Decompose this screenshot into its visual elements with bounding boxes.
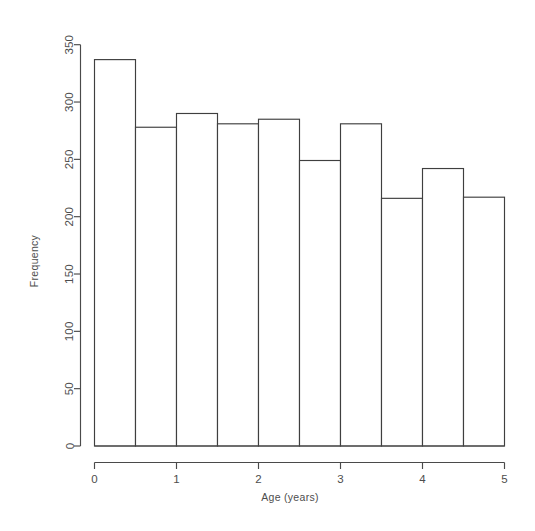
y-tick-label: 100 xyxy=(64,321,76,341)
histogram-figure: 050100150200250300350 012345 Age (years)… xyxy=(0,0,535,531)
histogram-bar xyxy=(259,119,300,446)
y-tick-label: 250 xyxy=(64,149,76,169)
x-tick-label: 4 xyxy=(419,473,426,485)
y-axis-title: Frequency xyxy=(28,234,40,287)
histogram-bar xyxy=(341,124,382,446)
y-tick-label: 0 xyxy=(64,443,76,450)
y-tick-label: 300 xyxy=(64,92,76,112)
histogram-bar xyxy=(300,161,341,447)
histogram-bar xyxy=(464,197,505,446)
y-tick-label: 150 xyxy=(64,264,76,284)
y-tick-label: 50 xyxy=(64,382,76,395)
x-tick-label: 2 xyxy=(255,473,262,485)
histogram-bar xyxy=(218,124,259,446)
x-tick-label: 3 xyxy=(337,473,344,485)
x-tick-label: 5 xyxy=(501,473,508,485)
x-axis-title: Age (years) xyxy=(261,491,319,503)
histogram-bar xyxy=(95,60,136,446)
plot-canvas: 050100150200250300350 012345 Age (years)… xyxy=(0,0,535,531)
y-tick-label: 200 xyxy=(64,207,76,227)
x-tick-label: 1 xyxy=(173,473,180,485)
histogram-bar xyxy=(177,113,218,446)
x-tick-label: 0 xyxy=(91,473,98,485)
histogram-bar xyxy=(382,198,423,446)
histogram-bar xyxy=(136,127,177,446)
histogram-bar xyxy=(423,169,464,446)
y-tick-label: 350 xyxy=(64,35,76,55)
